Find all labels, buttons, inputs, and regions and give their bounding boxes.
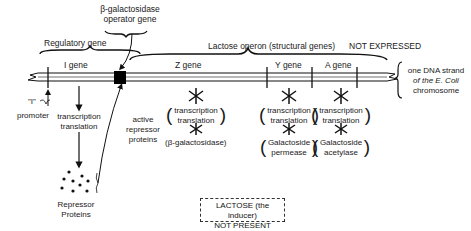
dna-label-line1: one DNA strand — [404, 66, 468, 76]
dna-label-line3: chromosome — [404, 86, 468, 96]
dna-label-brace — [395, 62, 402, 98]
z-gene-label: Z gene — [175, 60, 201, 70]
operator-brace — [105, 31, 147, 37]
y-process: transcription translation — [264, 106, 314, 126]
operator-gene-label: β-galactosidase operator gene — [100, 4, 160, 24]
a-translation: translation — [316, 116, 366, 126]
repressor-line2: Proteins — [52, 210, 100, 220]
active-line3: proteins — [123, 135, 163, 145]
dna-strand-label: one DNA strand of the E. Coli chromosome — [404, 66, 468, 96]
y-transcription: transcription — [264, 106, 314, 116]
y-translation: translation — [264, 116, 314, 126]
promoter-label: promoter — [17, 111, 49, 121]
dna-label-line2: of the E. Coli — [404, 76, 468, 86]
i-transcription: transcription — [56, 112, 102, 122]
repressor-protein-dots — [60, 170, 89, 192]
y-product-line2: permease — [265, 148, 313, 158]
a-gene-label: A gene — [325, 60, 351, 70]
regulatory-gene-label: Regulatory gene — [44, 38, 106, 48]
promoter-mark: "I" — [28, 97, 36, 107]
dna-strand — [28, 73, 397, 81]
inducer-status-box: LACTOSE (the inducer) NOT PRESENT — [200, 198, 285, 222]
a-transcription: transcription — [316, 106, 366, 116]
inducer-line2: NOT PRESENT — [201, 221, 284, 231]
i-gene-label: I gene — [64, 60, 88, 70]
operator-label-line2: operator gene — [100, 14, 160, 24]
active-line1: active — [123, 115, 163, 125]
y-product-line1: Galactoside — [265, 138, 313, 148]
operator-gene-block — [114, 71, 126, 84]
repressor-line1: Repressor — [52, 200, 100, 210]
a-product-line2: acetylase — [317, 148, 365, 158]
a-process: transcription translation — [316, 106, 366, 126]
z-translation: translation — [171, 116, 221, 126]
a-product-line1: Galactoside — [317, 138, 365, 148]
i-translation: translation — [56, 122, 102, 132]
operon-label: Lactose operon (structural genes) — [208, 41, 335, 51]
active-line2: repressor — [123, 125, 163, 135]
not-expressed-label: NOT EXPRESSED — [349, 41, 421, 51]
active-repressor-label: active repressor proteins — [123, 115, 163, 145]
z-process: transcription translation — [171, 106, 221, 126]
repressor-proteins-label: Repressor Proteins — [52, 200, 100, 220]
z-product-label: (β-galactosidase) — [165, 138, 227, 148]
a-product: Galactoside acetylase — [317, 138, 365, 158]
y-gene-label: Y gene — [275, 60, 302, 70]
y-product: Galactoside permease — [265, 138, 313, 158]
z-transcription: transcription — [171, 106, 221, 116]
inducer-line1: LACTOSE (the inducer) — [201, 201, 284, 221]
i-gene-process: transcription translation — [56, 112, 102, 132]
gene-boundaries — [48, 67, 357, 88]
operator-label-line1: β-galactosidase — [100, 4, 160, 14]
